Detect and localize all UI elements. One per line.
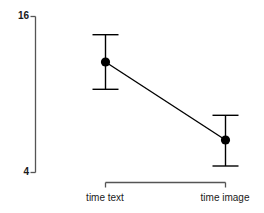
- chart-canvas: [0, 0, 264, 213]
- chart-figure: 16 4 time text time image: [0, 0, 264, 213]
- data-point-0: [101, 57, 110, 66]
- x-axis-label-time-text: time text: [86, 193, 124, 203]
- y-axis-label-top: 16: [11, 11, 29, 21]
- line-segment-0: [106, 62, 226, 140]
- series-line: [106, 62, 226, 140]
- x-axis-label-time-image: time image: [201, 193, 250, 203]
- data-point-1: [221, 135, 230, 144]
- x-axis: [106, 183, 226, 188]
- y-axis-label-bottom: 4: [11, 167, 29, 177]
- plot-area: 16 4 time text time image: [0, 0, 264, 213]
- y-axis: [31, 17, 36, 173]
